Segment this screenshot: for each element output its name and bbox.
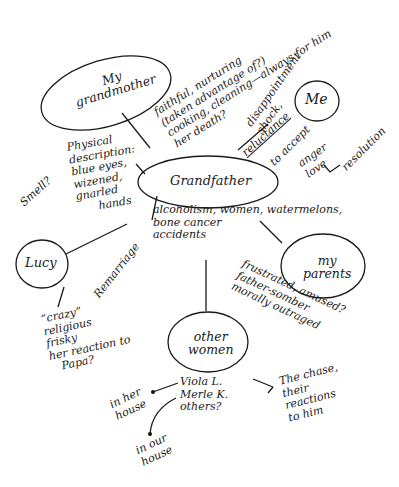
chase-line xyxy=(253,379,273,387)
lucy-traits-line xyxy=(58,287,64,307)
women-names-note: Viola L. Merle K. others? xyxy=(180,376,228,414)
her-house-arrow xyxy=(153,383,178,392)
node-other-women: other women xyxy=(188,330,234,356)
diagram-lines xyxy=(0,0,399,487)
node-me: Me xyxy=(305,93,328,106)
cluster-diagram: My grandmother Me Grandfather Lucy my pa… xyxy=(0,0,399,487)
grandfather-traits-note: alcoholism, women, watermelons, bone can… xyxy=(153,204,342,242)
node-grandfather: Grandfather xyxy=(170,174,251,187)
chase-tick xyxy=(268,387,273,393)
our-house-arrow xyxy=(150,398,176,434)
node-parents: my parents xyxy=(303,254,351,280)
physical-description-note: Physical description: blue eyes, wizened… xyxy=(66,130,145,215)
node-lucy: Lucy xyxy=(25,256,57,269)
lucy-grandfather-line xyxy=(66,224,127,254)
